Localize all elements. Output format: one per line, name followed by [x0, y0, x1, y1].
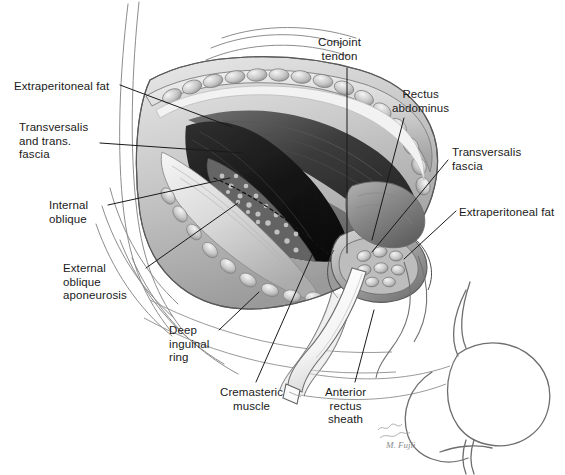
label-line-1: Internal — [49, 199, 88, 211]
label-line-1: Rectus — [402, 88, 438, 100]
label-cremasteric-muscle: Cremastericmuscle — [220, 386, 283, 413]
label-line-1: Deep — [169, 324, 197, 336]
label-line-3: fascia — [19, 148, 50, 160]
label-rectus-abdominus: Rectusabdominus — [392, 88, 449, 115]
label-line-1: Transversalis — [19, 121, 88, 133]
label-line-2: inguinal — [169, 338, 209, 350]
label-line-2: rectus — [330, 400, 362, 412]
label-line-3: aponeurosis — [63, 289, 127, 301]
label-line-2: abdominus — [392, 102, 449, 114]
label-deep-inguinal-ring: Deepinguinalring — [169, 324, 209, 365]
label-internal-oblique: Internaloblique — [49, 199, 88, 226]
label-extraperitoneal-fat-left: Extraperitoneal fat — [14, 80, 109, 94]
label-extraperitoneal-fat-right: Extraperitoneal fat — [459, 206, 554, 220]
label-conjoint-tendon: Conjointtendon — [318, 36, 361, 63]
leader-anterior-rectus-sheath — [355, 310, 374, 382]
label-transversalis-and-trans-fascia: Transversalisand trans.fascia — [19, 121, 88, 162]
label-external-oblique-aponeurosis: Externalobliqueaponeurosis — [63, 262, 127, 303]
label-line-2: oblique — [49, 213, 87, 225]
label-line-1: External — [63, 262, 106, 274]
label-anterior-rectus-sheath: Anteriorrectussheath — [325, 386, 366, 427]
label-line-1: Anterior — [325, 386, 366, 398]
label-line-3: sheath — [328, 413, 363, 425]
label-line-1: Cremasteric — [220, 386, 283, 398]
label-line-2: and trans. — [19, 135, 71, 147]
label-transversalis-fascia-right: Transversalisfascia — [452, 146, 521, 173]
label-line-1: Transversalis — [452, 146, 521, 158]
anatomical-figure: Extraperitoneal fat Transversalisand tra… — [0, 0, 565, 475]
label-line-3: ring — [169, 351, 189, 363]
label-line-2: tendon — [322, 50, 358, 62]
label-line-2: fascia — [452, 160, 483, 172]
label-line-2: muscle — [233, 400, 270, 412]
label-line-2: oblique — [63, 276, 101, 288]
label-line-1: Conjoint — [318, 36, 361, 48]
scrotum-and-thigh — [405, 282, 549, 474]
artist-signature: M. Fujii — [386, 440, 416, 450]
